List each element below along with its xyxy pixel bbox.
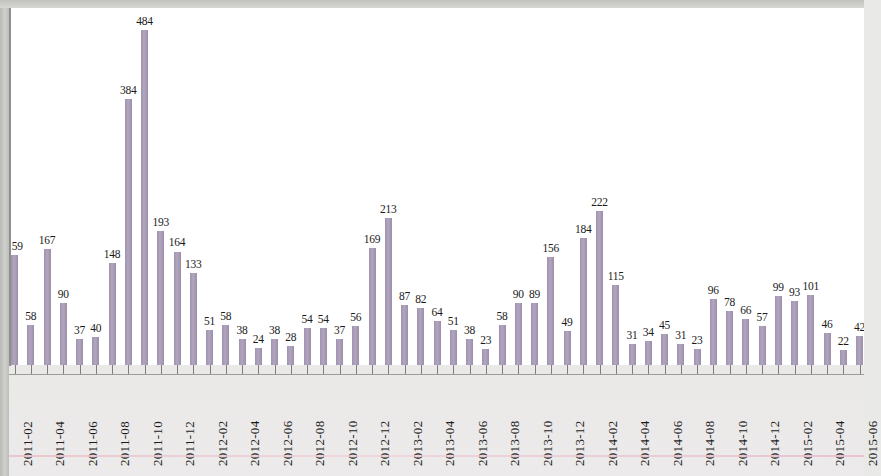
bar-chart-plot-area: 1595816790374014838448419316413351583824…: [9, 8, 864, 365]
x-axis-tick-label: 2012-04: [247, 421, 263, 466]
bar-value-label: 101: [794, 280, 828, 292]
x-axis-line: [9, 374, 864, 375]
x-axis-tick-label: 2014-12: [767, 421, 783, 466]
x-axis-tick-label: 2014-02: [605, 421, 621, 466]
bar: [499, 325, 506, 365]
x-axis-tick-label: 2013-08: [507, 421, 523, 466]
bar: [255, 348, 262, 365]
bar: [726, 311, 733, 365]
x-axis-tick-label: 2011-10: [150, 421, 166, 466]
bar: [775, 296, 782, 365]
bar-value-label: 156: [534, 242, 568, 254]
bar: [515, 303, 522, 365]
bar-value-label: 90: [46, 288, 80, 300]
x-axis-tick-label: 2012-12: [377, 421, 393, 466]
bar: [710, 299, 717, 365]
x-axis-tick-label: 2014-06: [670, 421, 686, 466]
bar-value-label: 96: [696, 284, 730, 296]
x-axis-tick-label: 2013-10: [540, 421, 556, 466]
bar: [44, 249, 51, 365]
bar: [287, 346, 294, 365]
x-axis-tick-label: 2011-08: [117, 421, 133, 466]
bars-container: 1595816790374014838448419316413351583824…: [9, 8, 864, 365]
x-axis-tick-label: 2011-02: [20, 421, 36, 466]
bar-value-label: 54: [306, 313, 340, 325]
scan-frame-left-edge: [0, 0, 9, 476]
bar: [336, 339, 343, 365]
bar-value-label: 164: [160, 236, 194, 248]
x-axis-tick-label: 2011-06: [85, 421, 101, 466]
bar-value-label: 167: [30, 234, 64, 246]
x-axis-tick-label: 2015-04: [832, 421, 848, 466]
bar: [482, 349, 489, 365]
x-axis-tick-label: 2012-06: [280, 421, 296, 466]
bar-value-label: 58: [209, 310, 243, 322]
bar-value-label: 115: [599, 270, 633, 282]
x-axis-tick-label: 2014-08: [702, 421, 718, 466]
x-axis-tick-label: 2014-04: [637, 421, 653, 466]
bar: [157, 231, 164, 365]
bar: [645, 341, 652, 365]
bar-value-label: 46: [810, 318, 844, 330]
scan-frame-top-edge: [0, 0, 864, 8]
bar: [27, 325, 34, 365]
x-axis-tick-label: 2013-02: [410, 421, 426, 466]
bar: [612, 285, 619, 365]
bar: [629, 344, 636, 365]
bar: [271, 339, 278, 365]
bar: [791, 301, 798, 365]
bar: [304, 328, 311, 365]
bar-value-label: 159: [9, 240, 32, 252]
x-axis-tick-label: 2015-02: [800, 421, 816, 466]
bar: [677, 344, 684, 365]
bar: [840, 350, 847, 365]
bar-value-label: 42: [843, 321, 865, 333]
bar-value-label: 213: [371, 203, 405, 215]
bar: [856, 336, 863, 365]
bar: [580, 238, 587, 365]
x-axis-tick-label: 2011-12: [182, 421, 198, 466]
x-axis-tick-label: 2012-10: [345, 421, 361, 466]
bar: [352, 326, 359, 365]
page-ruled-line: [9, 455, 864, 457]
x-axis-tick-label: 2012-08: [312, 421, 328, 466]
bar: [141, 30, 148, 365]
bar: [401, 305, 408, 365]
y-axis-line: [9, 8, 11, 366]
bar: [694, 349, 701, 365]
bar: [109, 263, 116, 365]
bar: [759, 326, 766, 365]
bar: [76, 339, 83, 365]
bar: [742, 319, 749, 365]
bar-value-label: 82: [404, 293, 438, 305]
x-axis-tick-label: 2014-10: [735, 421, 751, 466]
x-axis-tick-label: 2012-02: [215, 421, 231, 466]
bar: [92, 337, 99, 365]
bar: [369, 248, 376, 365]
x-axis-tick-label: 2015-06: [865, 421, 881, 466]
bar: [596, 211, 603, 365]
x-axis-tick-label: 2013-04: [442, 421, 458, 466]
x-axis-tick-labels: 2011-022011-042011-062011-082011-102011-…: [9, 378, 864, 476]
x-axis-tick-label: 2013-12: [572, 421, 588, 466]
x-axis-tick-label: 2011-04: [52, 421, 68, 466]
x-axis-tick-label: 2013-06: [475, 421, 491, 466]
bar: [434, 321, 441, 365]
bar-value-label: 222: [583, 196, 617, 208]
bar: [531, 303, 538, 365]
bar: [125, 99, 132, 365]
bar-value-label: 193: [144, 216, 178, 228]
bar-value-label: 133: [176, 258, 210, 270]
bar: [564, 331, 571, 365]
bar: [206, 330, 213, 365]
bar-value-label: 484: [128, 15, 162, 27]
bar: [547, 257, 554, 365]
